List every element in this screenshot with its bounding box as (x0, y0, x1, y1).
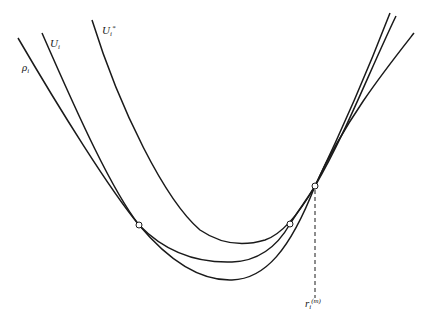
curve-U (42, 16, 396, 262)
label-rho: ρi (22, 62, 29, 75)
label-U-sub: i (58, 43, 60, 51)
diagram-canvas (0, 0, 437, 321)
label-Ustar-base: U (102, 24, 110, 36)
label-Ustar: Ui* (102, 25, 115, 38)
label-marker: ri(m) (305, 298, 321, 311)
label-marker-sup: (m) (311, 297, 321, 305)
tangent-point-right (287, 221, 293, 227)
label-U-base: U (50, 37, 58, 49)
label-U: Ui (50, 38, 60, 51)
label-rho-sub: i (27, 67, 29, 75)
label-Ustar-sup: * (112, 24, 116, 32)
tangent-point-top (312, 183, 318, 189)
tangent-point-left (136, 222, 142, 228)
curve-rho (18, 33, 414, 280)
